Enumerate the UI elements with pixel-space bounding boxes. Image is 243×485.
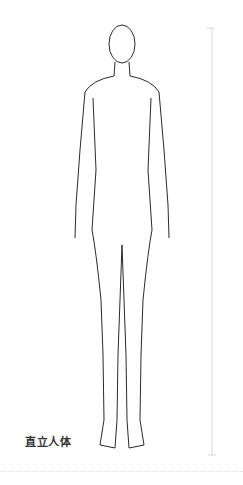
croquis-figure-outline bbox=[0, 0, 243, 485]
figure-silhouette bbox=[75, 25, 169, 448]
figure-caption: 直立人体 bbox=[25, 433, 71, 449]
dotted-divider bbox=[0, 471, 243, 472]
height-measure-line bbox=[206, 28, 216, 455]
